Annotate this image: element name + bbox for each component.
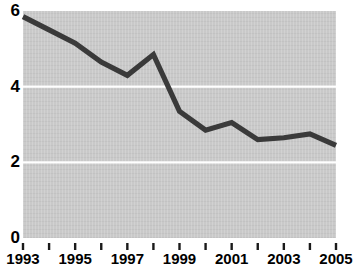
x-axis-label-2001: 2001: [215, 251, 248, 266]
x-axis-label-1993: 1993: [6, 251, 39, 266]
y-axis-label-6: 6: [1, 2, 20, 19]
y-axis-label-2: 2: [1, 153, 20, 170]
x-axis-label-1997: 1997: [111, 251, 144, 266]
x-axis-labels: 1993199519971999200120032005: [0, 251, 355, 275]
y-axis-label-4: 4: [1, 78, 20, 95]
line-chart: 0246 1993199519971999200120032005: [0, 0, 355, 279]
x-axis-label-2005: 2005: [319, 251, 352, 266]
x-axis-label-1995: 1995: [58, 251, 91, 266]
x-axis-label-2003: 2003: [267, 251, 300, 266]
data-series-layer: [0, 0, 355, 279]
y-axis-label-0: 0: [1, 229, 20, 246]
data-line-series-1: [23, 17, 336, 146]
y-axis-labels: 0246: [0, 0, 20, 279]
x-axis-label-1999: 1999: [163, 251, 196, 266]
